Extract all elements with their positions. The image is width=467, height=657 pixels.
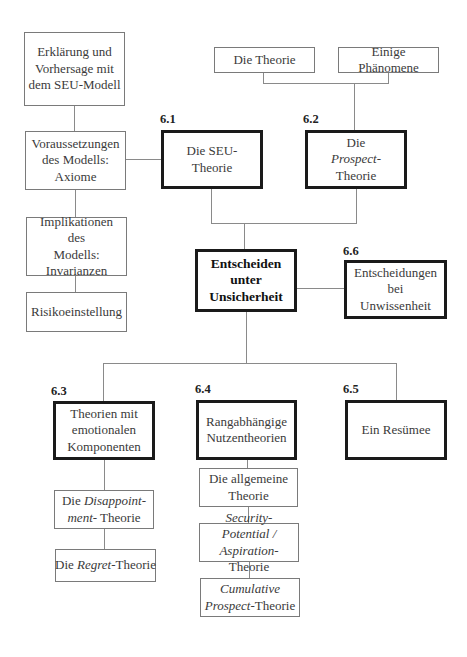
node-text: Modells:: [53, 247, 99, 262]
section-number-6-1: 6.1: [160, 112, 176, 127]
section-number-6-2: 6.2: [303, 112, 319, 127]
node-text: Risikoeinstellung: [31, 304, 122, 321]
connector-line: [296, 288, 344, 289]
node-text: Axiome: [55, 169, 97, 184]
connector-line: [74, 106, 75, 131]
connector-line: [396, 363, 397, 400]
node-text-italic: ment-: [67, 510, 97, 525]
connector-line: [104, 459, 105, 490]
connector-line: [103, 363, 397, 364]
section-number-6-6: 6.6: [343, 244, 359, 259]
section-number-6-3: 6.3: [51, 384, 67, 399]
connector-line: [126, 159, 161, 160]
node-die-theorie: Die Theorie: [214, 47, 315, 73]
node-text: unter: [230, 272, 262, 287]
node-text: Nutzentheorien: [206, 430, 286, 445]
node-text: Unsicherheit: [209, 289, 283, 304]
node-text: dem SEU-Modell: [28, 77, 120, 92]
node-text: Entscheiden: [211, 256, 282, 271]
node-text: Implikationen des: [40, 214, 113, 246]
node-text: Einige Phänomene: [342, 44, 435, 77]
node-text: Rangabhängige: [206, 414, 287, 429]
node-text: Theorien mit: [70, 406, 138, 421]
node-text: Voraussetzungen: [32, 136, 120, 151]
node-text: Die Theorie: [233, 52, 295, 69]
node-text: Erklärung und: [37, 44, 112, 59]
connector-line: [247, 459, 248, 468]
section-number-6-5: 6.5: [343, 382, 359, 397]
node-security-potential-aspiration: Security-Potential /Aspiration-Theorie: [199, 523, 299, 562]
node-text: Unwissenheit: [360, 298, 431, 313]
node-text: Die: [55, 557, 77, 572]
node-erklaerung-vorhersage: Erklärung undVorhersage mitdem SEU-Model…: [24, 32, 125, 106]
node-text-italic: Security-Potential /: [222, 510, 277, 542]
connector-line: [244, 223, 245, 249]
node-text: Die: [62, 493, 84, 508]
node-text: Vorhersage mit: [35, 61, 114, 76]
node-text-italic: Disappoint-: [84, 493, 146, 508]
node-rangabhaengige-nutzentheorien: RangabhängigeNutzentheorien: [196, 400, 297, 460]
connector-line: [104, 529, 105, 549]
node-text-italic: Prospect: [205, 598, 251, 613]
section-number-6-4: 6.4: [195, 382, 211, 397]
connector-line: [211, 188, 212, 223]
node-text-italic: Cumulative: [220, 581, 280, 596]
connector-line: [263, 73, 264, 83]
node-voraussetzungen-axiome: Voraussetzungendes Modells:Axiome: [25, 131, 126, 190]
node-text: Die allgemeine: [209, 471, 288, 486]
node-ein-resuemee: Ein Resümee: [345, 400, 447, 460]
node-entscheidungen-unwissenheit: Entscheidungen beiUnwissenheit: [344, 260, 447, 319]
node-text-italic: Prospect: [331, 151, 377, 166]
node-text: Entscheidungen bei: [354, 265, 437, 297]
node-text: Invarianzen: [46, 263, 107, 278]
connector-line: [356, 188, 357, 223]
node-einige-phaenomene: Einige Phänomene: [338, 47, 439, 73]
node-text: Die: [347, 135, 366, 150]
connector-line: [211, 223, 357, 224]
connector-line: [246, 311, 247, 364]
node-seu-theorie: Die SEU-Theorie: [161, 130, 263, 189]
node-text: des Modells:: [42, 152, 109, 167]
node-text: -Theorie: [250, 598, 295, 613]
node-text-italic: Regret: [77, 557, 111, 572]
node-prospect-theorie: DieProspect-Theorie: [305, 130, 407, 189]
node-implikationen-invarianzen: Implikationen desModells:Invarianzen: [26, 217, 127, 276]
node-emotionale-komponenten: Theorien mitemotionalenKomponenten: [53, 401, 155, 460]
node-text: Die SEU-Theorie: [167, 143, 257, 176]
node-text: -Theorie: [111, 557, 156, 572]
node-regret-theorie: Die Regret-Theorie: [55, 549, 156, 582]
node-disappointment-theorie: Die Disappoint-ment- Theorie: [54, 490, 154, 529]
node-entscheiden-unter-unsicherheit: EntscheidenunterUnsicherheit: [195, 249, 297, 312]
connector-line: [354, 83, 355, 130]
node-text: Ein Resümee: [362, 422, 431, 439]
node-allgemeine-theorie: Die allgemeineTheorie: [199, 468, 298, 507]
node-risikoeinstellung: Risikoeinstellung: [26, 292, 127, 332]
connector-line: [103, 363, 104, 401]
node-text: Theorie: [228, 488, 268, 503]
node-text: Theorie: [97, 510, 140, 525]
node-text: emotionalen: [72, 422, 136, 437]
node-cumulative-prospect: CumulativeProspect-Theorie: [200, 578, 300, 617]
node-text-italic: Aspiration: [219, 543, 274, 558]
node-text: Komponenten: [67, 439, 141, 454]
connector-line: [263, 83, 389, 84]
